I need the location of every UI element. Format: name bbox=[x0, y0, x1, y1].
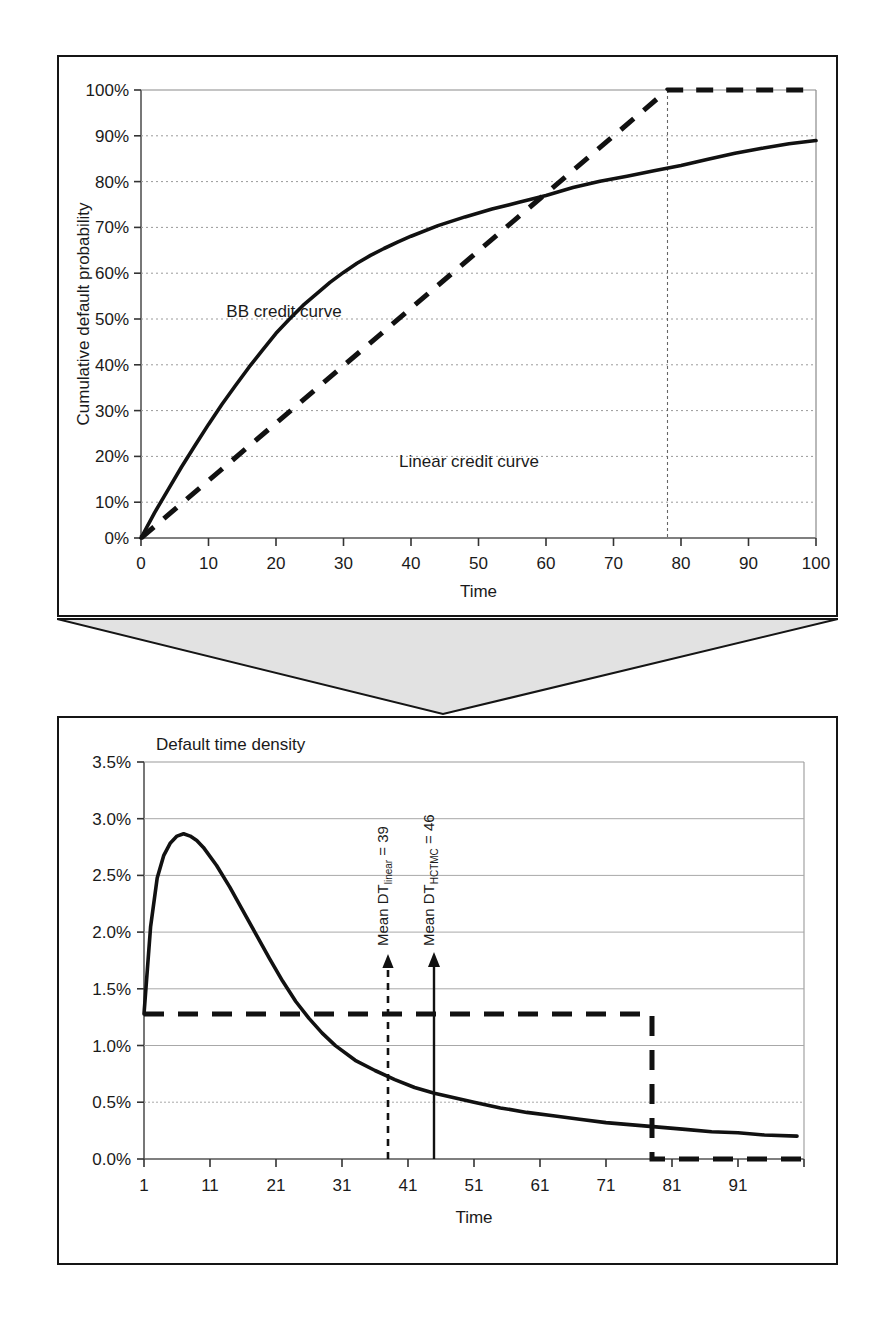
annotation-label-sub: HCTMC bbox=[429, 848, 440, 884]
svg-text:Mean DTlinear = 39: Mean DTlinear = 39 bbox=[374, 826, 394, 946]
y-axis-title: Cumulative default probability bbox=[74, 202, 93, 426]
default-time-density-panel: 3.5% 3.0% 2.5% 2.0% 1.5% 1.0% 0.5% 0.0% bbox=[57, 716, 838, 1265]
x-tick-label: 31 bbox=[333, 1176, 352, 1195]
y-tick-label: 2.5% bbox=[92, 866, 131, 885]
y-tick-label: 3.5% bbox=[92, 753, 131, 772]
x-tick-label: 21 bbox=[267, 1176, 286, 1195]
y-tick-label: 3.0% bbox=[92, 810, 131, 829]
x-tick-label: 20 bbox=[267, 554, 286, 573]
gridlines-horizontal bbox=[144, 819, 804, 1102]
svg-text:Mean DTHCTMC = 46: Mean DTHCTMC = 46 bbox=[420, 814, 440, 946]
x-tick-label: 81 bbox=[663, 1176, 682, 1195]
connector-triangle bbox=[57, 619, 838, 714]
y-tick-label: 90% bbox=[95, 127, 129, 146]
y-tick-label: 20% bbox=[95, 447, 129, 466]
x-axis-tick-labels: 1 11 21 31 41 51 61 71 81 91 bbox=[139, 1176, 747, 1195]
annotation-bb-credit-curve: BB credit curve bbox=[226, 302, 341, 321]
cumulative-default-probability-panel: 100% 90% 80% 70% 60% 50% 40% 30% 20% 10%… bbox=[57, 55, 838, 617]
y-tick-label: 30% bbox=[95, 402, 129, 421]
y-tick-label: 50% bbox=[95, 310, 129, 329]
x-axis-ticks bbox=[141, 538, 816, 546]
y-axis-ticks bbox=[137, 762, 144, 1159]
y-tick-label: 1.0% bbox=[92, 1037, 131, 1056]
x-tick-label: 41 bbox=[399, 1176, 418, 1195]
connector-svg bbox=[57, 617, 838, 716]
density-chart-svg: 3.5% 3.0% 2.5% 2.0% 1.5% 1.0% 0.5% 0.0% bbox=[59, 718, 836, 1263]
series-hctmc-density bbox=[144, 834, 797, 1136]
x-axis-title: Time bbox=[455, 1208, 492, 1227]
annotation-label-sub: linear bbox=[383, 859, 394, 884]
x-tick-label: 60 bbox=[537, 554, 556, 573]
x-axis-title: Time bbox=[460, 582, 497, 601]
zoom-connector bbox=[57, 617, 838, 716]
x-tick-label: 100 bbox=[802, 554, 830, 573]
annotation-label-eq: = 46 bbox=[420, 814, 437, 848]
annotation-label-text: Mean DT bbox=[420, 884, 437, 946]
cumulative-chart-svg: 100% 90% 80% 70% 60% 50% 40% 30% 20% 10%… bbox=[59, 57, 836, 615]
x-tick-label: 90 bbox=[739, 554, 758, 573]
x-tick-label: 10 bbox=[199, 554, 218, 573]
x-tick-label: 70 bbox=[604, 554, 623, 573]
x-tick-label: 1 bbox=[139, 1176, 148, 1195]
y-tick-label: 0.5% bbox=[92, 1093, 131, 1112]
plot-frame bbox=[144, 762, 804, 1159]
y-tick-label: 60% bbox=[95, 264, 129, 283]
plot-title: Default time density bbox=[156, 735, 306, 754]
annotation-mean-dt-linear: Mean DTlinear = 39 bbox=[374, 826, 394, 1159]
y-axis-tick-labels: 3.5% 3.0% 2.5% 2.0% 1.5% 1.0% 0.5% 0.0% bbox=[92, 753, 131, 1169]
figure-container: 100% 90% 80% 70% 60% 50% 40% 30% 20% 10%… bbox=[0, 0, 871, 1333]
x-tick-label: 91 bbox=[729, 1176, 748, 1195]
x-tick-label: 71 bbox=[597, 1176, 616, 1195]
y-tick-label: 40% bbox=[95, 356, 129, 375]
x-tick-label: 50 bbox=[469, 554, 488, 573]
y-tick-label: 0.0% bbox=[92, 1150, 131, 1169]
y-tick-label: 70% bbox=[95, 218, 129, 237]
y-tick-label: 100% bbox=[86, 81, 129, 100]
y-tick-label: 80% bbox=[95, 173, 129, 192]
y-tick-label: 2.0% bbox=[92, 923, 131, 942]
y-tick-label: 1.5% bbox=[92, 980, 131, 999]
series-linear-density bbox=[144, 1014, 804, 1159]
x-tick-label: 80 bbox=[672, 554, 691, 573]
annotation-mean-dt-hctmc: Mean DTHCTMC = 46 bbox=[420, 814, 440, 1159]
y-tick-label: 0% bbox=[104, 529, 129, 548]
x-axis-tick-labels: 0 10 20 30 40 50 60 70 80 90 100 bbox=[136, 554, 830, 573]
x-tick-label: 40 bbox=[402, 554, 421, 573]
annotation-label-eq: = 39 bbox=[374, 826, 391, 860]
x-tick-label: 51 bbox=[465, 1176, 484, 1195]
y-axis-ticks bbox=[134, 90, 141, 538]
x-axis-ticks bbox=[144, 1159, 804, 1167]
x-tick-label: 30 bbox=[334, 554, 353, 573]
y-tick-label: 10% bbox=[95, 493, 129, 512]
annotation-label-text: Mean DT bbox=[374, 884, 391, 946]
series-bb-credit-curve bbox=[141, 141, 816, 539]
annotation-linear-credit-curve: Linear credit curve bbox=[399, 452, 539, 471]
x-tick-label: 11 bbox=[201, 1176, 219, 1195]
x-tick-label: 0 bbox=[136, 554, 145, 573]
x-tick-label: 61 bbox=[531, 1176, 550, 1195]
